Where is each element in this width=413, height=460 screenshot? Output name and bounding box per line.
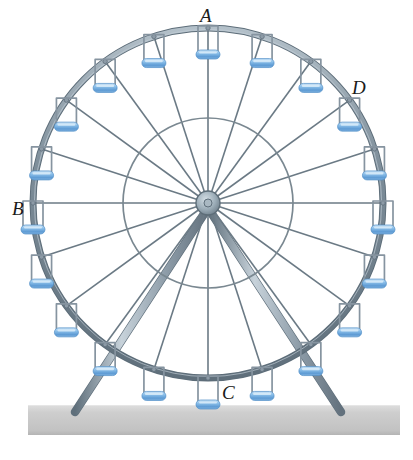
cabin-seat-highlight — [253, 60, 271, 62]
cabin-seat-highlight — [199, 401, 217, 403]
spoke-2 — [208, 61, 311, 203]
wheel-hub — [196, 191, 220, 215]
cabin-seat — [93, 83, 117, 92]
spoke-17 — [66, 100, 208, 203]
spoke-3 — [208, 100, 350, 203]
left-leg — [75, 208, 208, 412]
ferris-wheel-figure: A B C D — [0, 0, 413, 460]
cabin-seat — [299, 83, 323, 92]
point-label-b: B — [12, 199, 24, 218]
cabin-seat — [21, 225, 45, 234]
point-label-c: C — [222, 383, 235, 402]
spoke-12 — [105, 203, 208, 345]
cabin-seat-highlight — [374, 226, 392, 228]
cabin-seat — [338, 328, 362, 337]
cabin-seat-highlight — [365, 280, 383, 282]
cabin-seat-highlight — [96, 85, 114, 87]
cabin-seat-highlight — [145, 393, 163, 395]
cabin-seat-highlight — [341, 124, 359, 126]
cabin-seat — [250, 59, 274, 68]
cabin-seat — [142, 391, 166, 400]
cabin-seat — [250, 391, 274, 400]
cabin-seat-highlight — [33, 172, 51, 174]
cabin-seat — [54, 122, 78, 131]
cabin-seat-highlight — [57, 329, 75, 331]
spoke-13 — [66, 203, 208, 306]
ferris-wheel-drawing — [0, 0, 413, 460]
cabin-seat — [30, 171, 54, 180]
cabin-seat-highlight — [24, 226, 42, 228]
hub-bore — [204, 199, 212, 207]
cabin-seat-highlight — [199, 51, 217, 53]
cabin-seat-highlight — [302, 85, 320, 87]
cabin-seat-highlight — [96, 368, 114, 370]
cabin-seat — [30, 279, 54, 288]
spoke-16 — [42, 149, 208, 203]
spoke-7 — [208, 203, 350, 306]
cabin-seat-highlight — [365, 172, 383, 174]
cabin-seat — [93, 367, 117, 376]
cabin-seat — [371, 225, 395, 234]
cabin-seat — [299, 367, 323, 376]
cabin-seat-highlight — [341, 329, 359, 331]
spoke-8 — [208, 203, 311, 345]
cabin-seat — [362, 171, 386, 180]
cabin-seat-highlight — [33, 280, 51, 282]
cabin-seat-highlight — [253, 393, 271, 395]
cabin-seat — [338, 122, 362, 131]
cabin-seat — [54, 328, 78, 337]
spoke-4 — [208, 149, 374, 203]
cabin-seat — [362, 279, 386, 288]
cabin-seat-highlight — [302, 368, 320, 370]
point-label-a: A — [200, 6, 212, 25]
cabin-seat — [196, 50, 220, 59]
point-label-d: D — [352, 78, 366, 97]
cabin-seat-highlight — [145, 60, 163, 62]
cabin-seat — [142, 59, 166, 68]
cabin-seat — [196, 400, 220, 409]
cabin-seat-highlight — [57, 124, 75, 126]
spoke-18 — [105, 61, 208, 203]
